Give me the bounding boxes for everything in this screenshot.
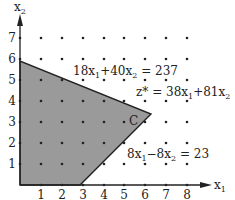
y-tick-5: 5 — [8, 73, 16, 87]
point-c-label: C — [129, 114, 138, 128]
x-tick-3: 3 — [79, 188, 87, 200]
y-tick-4: 4 — [8, 94, 16, 108]
x-tick-1: 1 — [37, 188, 45, 200]
constraint-2-label: 8x1−8x2 = 23 — [127, 147, 209, 163]
objective-label: z* = 38x1+81x2 — [136, 85, 230, 101]
y-tick-7: 7 — [8, 31, 16, 45]
x-tick-4: 4 — [100, 188, 108, 200]
y-tick-1: 1 — [8, 157, 16, 171]
x-tick-2: 2 — [58, 188, 66, 200]
y-tick-3: 3 — [8, 115, 16, 129]
y-axis-label: x2 — [14, 0, 26, 16]
constraint-1-label: 18x1+40x2 = 237 — [73, 64, 178, 80]
x-tick-8: 8 — [183, 188, 191, 200]
ip-diagram: 7 6 5 4 3 2 1 1 2 3 4 5 6 7 8 x2 x1 18x1… — [0, 0, 235, 200]
y-tick-6: 6 — [8, 52, 16, 66]
x-axis-label: x1 — [214, 178, 226, 194]
x-tick-7: 7 — [162, 188, 170, 200]
x-tick-6: 6 — [141, 188, 149, 200]
y-tick-2: 2 — [8, 136, 16, 150]
x-tick-5: 5 — [120, 188, 128, 200]
x-axis-arrow-icon — [200, 182, 212, 188]
